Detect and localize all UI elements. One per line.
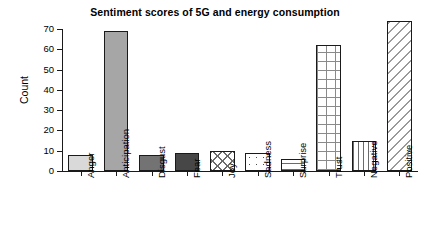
x-tick-mark	[399, 172, 400, 176]
x-tick-mark	[152, 172, 153, 176]
y-tick-label: 50	[32, 65, 54, 74]
x-tick-mark	[258, 172, 259, 176]
x-tick-label-anticipation: Anticipation	[120, 129, 131, 178]
x-tick-label-positive: Positive	[403, 145, 414, 178]
chart-title: Sentiment scores of 5G and energy consum…	[0, 6, 430, 18]
x-tick-label-surprise: Surprise	[297, 143, 308, 178]
y-tick-label: 70	[32, 24, 54, 33]
y-tick-mark	[57, 130, 62, 131]
y-tick-label: 10	[32, 146, 54, 155]
y-tick-label: 20	[32, 125, 54, 134]
y-axis-line	[62, 29, 63, 172]
y-tick-label: 30	[32, 105, 54, 114]
x-tick-label-anger: Anger	[85, 153, 96, 178]
x-tick-label-sadness: Sadness	[262, 141, 273, 178]
y-tick-mark	[57, 171, 62, 172]
x-tick-mark	[187, 172, 188, 176]
x-tick-label-trust: Trust	[333, 157, 344, 178]
y-tick-mark	[57, 151, 62, 152]
bar-trust	[316, 45, 341, 171]
y-tick-label: 0	[32, 166, 54, 175]
x-tick-label-negative: Negative	[368, 141, 379, 179]
x-tick-mark	[364, 172, 365, 176]
y-tick-mark	[57, 70, 62, 71]
x-tick-mark	[222, 172, 223, 176]
x-tick-mark	[81, 172, 82, 176]
x-tick-label-fear: Fear	[191, 158, 202, 178]
bar-chart: Sentiment scores of 5G and energy consum…	[0, 0, 430, 242]
x-tick-label-joy: Joy	[226, 163, 237, 178]
x-tick-mark	[116, 172, 117, 176]
x-tick-label-disgust: Disgust	[156, 146, 167, 178]
y-tick-label: 60	[32, 44, 54, 53]
y-tick-mark	[57, 49, 62, 50]
y-tick-label: 40	[32, 85, 54, 94]
x-tick-mark	[329, 172, 330, 176]
y-tick-mark	[57, 29, 62, 30]
y-tick-mark	[57, 90, 62, 91]
x-tick-mark	[293, 172, 294, 176]
y-axis-ticks: 010203040506070	[0, 0, 62, 242]
y-tick-mark	[57, 110, 62, 111]
